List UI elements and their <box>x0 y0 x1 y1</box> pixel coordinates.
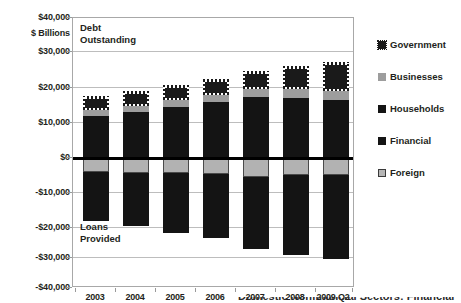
y-axis-label-0: $0 <box>4 152 70 162</box>
y-axis-label-40000: $40,000 <box>4 12 70 22</box>
bar-segment-businesses-2009q2 <box>323 91 349 100</box>
bar-segment-businesses-2006 <box>203 95 229 102</box>
bar-group-2005 <box>163 18 189 287</box>
bar-segment-government-2005 <box>163 85 189 100</box>
bar-segment-foreign-2009q2 <box>323 175 349 259</box>
bar-segment-government-2009q2 <box>323 62 349 91</box>
bar-segment-government-2006 <box>203 79 229 95</box>
legend-swatch-businesses-icon <box>378 73 386 81</box>
bar-group-2004 <box>123 18 149 287</box>
bar-group-2008 <box>283 18 309 287</box>
y-axis-label-neg20000: -$20,000 <box>4 222 70 232</box>
cropped-caption-area: Domestic Nonfinancial Sectors: Financial <box>0 297 461 303</box>
bar-segment-households-2007 <box>243 97 269 158</box>
bar-segment-financial-2009q2 <box>323 158 349 175</box>
legend-item-businesses[interactable]: Businesses <box>378 72 461 104</box>
bar-segment-financial-2004 <box>123 158 149 173</box>
bar-segment-foreign-2005 <box>163 173 189 233</box>
legend-label-households: Households <box>390 104 444 114</box>
legend-swatch-households-icon <box>378 105 386 113</box>
y-axis-unit-label: $ Billions <box>4 28 70 38</box>
bar-segment-households-2003 <box>83 116 109 158</box>
y-axis: $40,000 $ Billions $30,000 $20,000 $10,0… <box>0 0 70 303</box>
bar-segment-households-2006 <box>203 102 229 158</box>
y-axis-label-30000: $30,000 <box>4 46 70 56</box>
bar-segment-businesses-2008 <box>283 89 309 98</box>
bar-group-2006 <box>203 18 229 287</box>
bar-segment-households-2004 <box>123 112 149 158</box>
legend-label-businesses: Businesses <box>390 72 443 82</box>
bar-segment-households-2009q2 <box>323 100 349 158</box>
bar-segment-financial-2003 <box>83 158 109 172</box>
legend-swatch-government-icon <box>378 41 386 49</box>
bar-segment-financial-2007 <box>243 158 269 177</box>
bar-segment-financial-2008 <box>283 158 309 175</box>
legend-label-foreign: Foreign <box>390 168 425 178</box>
bar-segment-financial-2005 <box>163 158 189 173</box>
y-axis-label-20000: $20,000 <box>4 82 70 92</box>
bar-segment-foreign-2008 <box>283 175 309 255</box>
y-axis-label-neg40000: -$40,000 <box>4 282 70 292</box>
bar-segment-households-2008 <box>283 98 309 158</box>
legend-item-government[interactable]: Government <box>378 40 461 72</box>
bar-segment-foreign-2006 <box>203 174 229 238</box>
bar-group-2003 <box>83 18 109 287</box>
annotation-loans-provided: Loans Provided <box>80 221 121 244</box>
cropped-caption-text: Domestic Nonfinancial Sectors: Financial <box>238 297 454 302</box>
legend-label-government: Government <box>390 40 446 50</box>
zero-axis-line <box>72 157 354 160</box>
legend-swatch-financial-icon <box>378 137 386 145</box>
plot-area: Debt Outstanding Loans Provided <box>72 17 354 287</box>
legend-item-foreign[interactable]: Foreign <box>378 168 461 200</box>
bar-segment-households-2005 <box>163 107 189 158</box>
legend-item-financial[interactable]: Financial <box>378 136 461 168</box>
bar-segment-foreign-2004 <box>123 173 149 226</box>
chart-legend: Government Businesses Households Financi… <box>378 40 461 200</box>
legend-item-households[interactable]: Households <box>378 104 461 136</box>
bar-segment-financial-2006 <box>203 158 229 174</box>
bar-segment-businesses-2007 <box>243 89 269 97</box>
bar-segment-government-2004 <box>123 91 149 106</box>
y-axis-label-10000: $10,000 <box>4 117 70 127</box>
legend-swatch-foreign-icon <box>378 169 386 177</box>
bar-segment-foreign-2003 <box>83 172 109 221</box>
chart-canvas: $40,000 $ Billions $30,000 $20,000 $10,0… <box>0 0 461 303</box>
y-axis-label-neg30000: -$30,000 <box>4 252 70 262</box>
bar-segment-government-2007 <box>243 71 269 89</box>
bar-group-2007 <box>243 18 269 287</box>
y-axis-label-neg10000: -$10,000 <box>4 187 70 197</box>
bar-segment-government-2008 <box>283 66 309 89</box>
bar-segment-government-2003 <box>83 96 109 110</box>
bar-segment-foreign-2007 <box>243 177 269 249</box>
bar-group-2009q2 <box>323 18 349 287</box>
bar-segment-businesses-2005 <box>163 100 189 107</box>
legend-label-financial: Financial <box>390 136 431 146</box>
annotation-debt-outstanding: Debt Outstanding <box>80 22 136 45</box>
